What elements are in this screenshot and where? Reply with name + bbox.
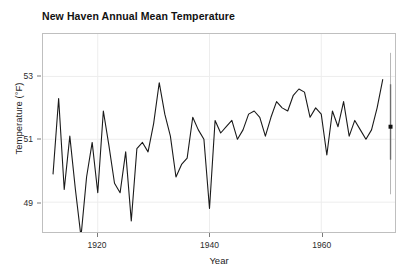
chart-root: New Haven Annual Mean Temperature 495153… (0, 0, 407, 280)
x-tick-mark (209, 233, 210, 237)
y-tick-mark (37, 75, 41, 76)
x-tick-mark (322, 233, 323, 237)
x-tick-label: 1940 (200, 240, 219, 250)
y-axis-title: Temperature (°F) (13, 19, 24, 219)
y-tick-label: 49 (24, 198, 33, 208)
chart-title: New Haven Annual Mean Temperature (42, 10, 235, 22)
y-tick-mark (37, 202, 41, 203)
x-tick-label: 1920 (88, 240, 107, 250)
x-axis: 192019401960 (42, 233, 396, 257)
plot-panel (42, 33, 396, 233)
summary-pointrange (43, 34, 395, 232)
x-tick-label: 1960 (312, 240, 331, 250)
x-tick-mark (97, 233, 98, 237)
y-tick-label: 51 (24, 134, 33, 144)
y-tick-label: 53 (24, 71, 33, 81)
y-tick-mark (37, 139, 41, 140)
x-axis-title: Year (42, 255, 396, 266)
